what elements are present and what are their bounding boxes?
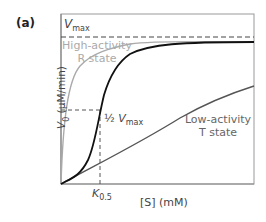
t-state-label: Low-activity T state [178, 113, 258, 139]
vmax-label: Vmax [64, 17, 90, 33]
r-state-label: High-activity R state [62, 39, 132, 65]
chart-plot [0, 0, 266, 222]
x-axis-label: [S] (mM) [140, 196, 188, 209]
y-axis-label: V0 (μM/min) [55, 43, 70, 153]
half-vmax-label: ½ Vmax [104, 112, 143, 127]
k05-label: K0.5 [92, 187, 112, 202]
